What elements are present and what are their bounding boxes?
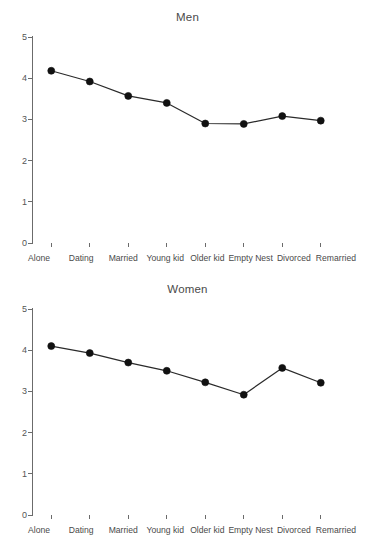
y-tick-label: 5 <box>22 33 27 42</box>
y-tick-label: 1 <box>22 469 27 478</box>
x-tick-label: Divorced <box>273 253 315 263</box>
x-tick-label: Dating <box>60 253 102 263</box>
y-tick-label: 2 <box>22 428 27 437</box>
data-point <box>202 379 209 386</box>
y-tick-label: 4 <box>22 346 27 355</box>
x-tick-label: Young kid <box>144 525 186 535</box>
chart-panel-men: Men 5 4 3 2 1 0 Alone Dating Married You… <box>0 0 375 272</box>
data-point <box>163 99 170 106</box>
data-point <box>240 391 247 398</box>
x-axis-labels-women: Alone Dating Married Young kid Older kid… <box>18 525 357 535</box>
data-point <box>317 117 324 124</box>
data-point <box>240 120 247 127</box>
data-point <box>125 92 132 99</box>
y-tick-label: 3 <box>22 115 27 124</box>
y-tick-label: 5 <box>22 305 27 314</box>
data-point <box>279 364 286 371</box>
x-tick-label: Married <box>102 525 144 535</box>
x-tick-label: Older kid <box>186 525 228 535</box>
chart-title-men: Men <box>0 11 375 23</box>
y-tick-label: 3 <box>22 387 27 396</box>
data-point <box>86 78 93 85</box>
y-tick-label: 2 <box>22 156 27 165</box>
x-axis-labels-men: Alone Dating Married Young kid Older kid… <box>18 253 357 263</box>
x-tick-label: Remarried <box>315 253 357 263</box>
data-point <box>202 120 209 127</box>
x-tick-label: Empty Nest <box>228 253 272 263</box>
x-tick-label: Divorced <box>273 525 315 535</box>
y-tick-label: 1 <box>22 197 27 206</box>
chart-panel-women: Women 5 4 3 2 1 0 Alone Dating Married Y… <box>0 272 375 541</box>
data-point <box>86 350 93 357</box>
data-point <box>317 379 324 386</box>
chart-title-women: Women <box>0 283 375 295</box>
plot-area-men: 5 4 3 2 1 0 <box>32 37 340 243</box>
data-point <box>48 343 55 350</box>
x-tick-label: Dating <box>60 525 102 535</box>
chart-svg-men <box>32 37 340 243</box>
plot-area-women: 5 4 3 2 1 0 <box>32 309 340 515</box>
chart-svg-women <box>32 309 340 515</box>
chart-page: Men 5 4 3 2 1 0 Alone Dating Married You… <box>0 0 375 541</box>
data-point <box>163 367 170 374</box>
y-tick-label: 4 <box>22 74 27 83</box>
y-tick-label: 0 <box>22 511 27 520</box>
x-tick-label: Alone <box>18 253 60 263</box>
data-point <box>48 67 55 74</box>
x-tick-label: Young kid <box>144 253 186 263</box>
data-point <box>279 113 286 120</box>
x-tick-label: Remarried <box>315 525 357 535</box>
y-tick-label: 0 <box>22 239 27 248</box>
x-tick-label: Empty Nest <box>228 525 272 535</box>
x-tick-label: Older kid <box>186 253 228 263</box>
x-tick-label: Married <box>102 253 144 263</box>
x-tick-label: Alone <box>18 525 60 535</box>
data-point <box>125 359 132 366</box>
